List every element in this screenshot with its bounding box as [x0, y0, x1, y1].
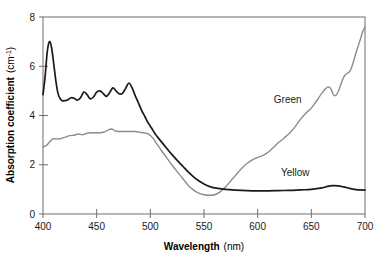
y-tick-label-8: 8	[29, 12, 35, 23]
x-axis-title: Wavelength(nm)	[164, 241, 244, 252]
x-tick-label-550: 550	[196, 221, 213, 232]
y-tick-label-6: 6	[29, 61, 35, 72]
x-tick-label-700: 700	[357, 221, 374, 232]
chart-canvas: 400450500550600650700 02468 GreenYellow …	[0, 0, 387, 259]
y-tick-label-2: 2	[29, 159, 35, 170]
x-tick-label-600: 600	[249, 221, 266, 232]
x-tick-label-400: 400	[35, 221, 52, 232]
x-tick-label-650: 650	[303, 221, 320, 232]
x-axis-tick-labels: 400450500550600650700	[35, 221, 374, 232]
absorption-spectrum-figure: 400450500550600650700 02468 GreenYellow …	[0, 0, 387, 259]
x-tick-label-500: 500	[142, 221, 159, 232]
y-tick-label-0: 0	[29, 209, 35, 220]
x-tick-label-450: 450	[88, 221, 105, 232]
y-tick-label-4: 4	[29, 110, 35, 121]
y-axis-tick-labels: 02468	[29, 12, 35, 220]
y-axis-title: Absorption coefficient(cm-1)	[5, 47, 16, 183]
series-label-yellow: Yellow	[281, 167, 310, 178]
series-label-green: Green	[274, 94, 302, 105]
